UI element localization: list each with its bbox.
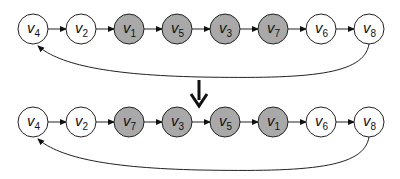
node-v2: v2	[66, 107, 96, 137]
down-arrow-icon	[191, 80, 207, 106]
node-v4: v4	[18, 14, 48, 44]
node-v8: v8	[354, 14, 384, 44]
node-v3: v3	[162, 107, 192, 137]
node-v5: v5	[210, 107, 240, 137]
node-v5: v5	[162, 14, 192, 44]
back-edge-arrow	[38, 137, 369, 170]
reorder-diagram: v4v2v1v5v3v7v6v8 v4v2v7v3v5v1v6v8	[0, 0, 400, 179]
node-v3: v3	[210, 14, 240, 44]
back-edge-arrow	[38, 44, 369, 77]
row-after: v4v2v7v3v5v1v6v8	[18, 107, 384, 170]
node-v8: v8	[354, 107, 384, 137]
row-before: v4v2v1v5v3v7v6v8	[18, 14, 384, 77]
node-v4: v4	[18, 107, 48, 137]
node-v2: v2	[66, 14, 96, 44]
node-v7: v7	[258, 14, 288, 44]
node-v7: v7	[114, 107, 144, 137]
node-v6: v6	[306, 107, 336, 137]
node-v1: v1	[258, 107, 288, 137]
node-v6: v6	[306, 14, 336, 44]
node-v1: v1	[114, 14, 144, 44]
